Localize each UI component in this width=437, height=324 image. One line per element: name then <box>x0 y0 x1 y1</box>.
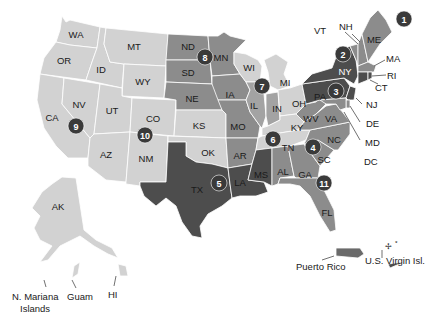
region-badge-10[interactable]: 10 <box>137 127 153 143</box>
label-sc: SC <box>317 154 330 165</box>
label-va: VA <box>325 113 338 124</box>
territory-pr[interactable] <box>336 248 364 258</box>
label-tn: TN <box>282 142 295 153</box>
region-badge-number: 1 <box>401 15 406 25</box>
label-guam: Guam <box>67 291 93 302</box>
label-hi: HI <box>108 289 118 300</box>
region-badge-number: 11 <box>319 179 329 189</box>
region-badge-2[interactable]: 2 <box>335 46 351 62</box>
label-la: LA <box>234 177 246 188</box>
label-fl: FL <box>321 207 332 218</box>
label-ny: NY <box>338 66 352 77</box>
label-ca: CA <box>45 112 59 123</box>
label-vi: U.S. Virgin Isl. <box>365 255 425 266</box>
label-nmi-1: N. Mariana <box>12 291 59 302</box>
us-regions-map: ✢ ˟ WA OR ID MT WY CA NV UT CO AZ NM ND … <box>0 0 437 324</box>
label-nh: NH <box>339 21 353 32</box>
region-badge-number: 9 <box>73 122 78 132</box>
label-mn: MN <box>214 52 229 63</box>
label-ga: GA <box>298 169 312 180</box>
label-pa: PA <box>314 91 327 102</box>
label-ak: AK <box>52 201 65 212</box>
label-nv: NV <box>72 99 86 110</box>
region-badge-number: 4 <box>310 143 315 153</box>
region-badge-number: 6 <box>270 135 275 145</box>
label-ms: MS <box>254 169 268 180</box>
state-ri[interactable] <box>368 72 372 80</box>
region-badge-5[interactable]: 5 <box>211 175 227 191</box>
region-badge-8[interactable]: 8 <box>197 49 213 65</box>
region-badge-number: 3 <box>333 87 338 97</box>
region-badge-number: 2 <box>340 50 345 60</box>
label-pr: Puerto Rico <box>296 261 346 272</box>
label-ri: RI <box>387 70 397 81</box>
label-dc: DC <box>364 156 378 167</box>
label-mi: MI <box>280 77 291 88</box>
label-ok: OK <box>201 147 215 158</box>
label-in: IN <box>272 103 282 114</box>
label-id: ID <box>96 64 106 75</box>
region-badge-3[interactable]: 3 <box>328 83 344 99</box>
label-ia: IA <box>226 89 236 100</box>
label-nj: NJ <box>366 99 378 110</box>
region-badge-4[interactable]: 4 <box>305 139 321 155</box>
label-al: AL <box>277 166 289 177</box>
region-badge-1[interactable]: 1 <box>396 11 412 27</box>
region-badge-number: 5 <box>216 179 221 189</box>
territory-hi[interactable] <box>118 264 128 276</box>
region-badge-number: 7 <box>259 82 264 92</box>
label-tx: TX <box>191 184 204 195</box>
state-ak[interactable] <box>32 177 118 262</box>
label-mo: MO <box>230 121 245 132</box>
territory-vi-islets: ✢ ˟ <box>385 241 398 251</box>
label-nmi-2: Islands <box>20 303 50 314</box>
label-wi: WI <box>243 62 255 73</box>
region-badge-number: 10 <box>140 131 150 141</box>
label-md: MD <box>365 137 380 148</box>
label-ar: AR <box>233 150 246 161</box>
region-badge-9[interactable]: 9 <box>68 118 84 134</box>
label-ky: KY <box>291 122 304 133</box>
region-badge-11[interactable]: 11 <box>316 175 332 191</box>
label-wv: WV <box>303 113 319 124</box>
label-oh: OH <box>292 98 306 109</box>
label-wa: WA <box>69 29 85 40</box>
label-nd: ND <box>181 41 195 52</box>
label-nm: NM <box>139 153 154 164</box>
label-ct: CT <box>375 82 388 93</box>
label-ks: KS <box>193 120 206 131</box>
region-badge-7[interactable]: 7 <box>254 78 270 94</box>
label-mt: MT <box>127 41 141 52</box>
label-me: ME <box>367 34 381 45</box>
state-de[interactable] <box>346 100 350 108</box>
label-vt: VT <box>314 25 326 36</box>
region-badge-6[interactable]: 6 <box>265 131 281 147</box>
label-ut: UT <box>106 105 119 116</box>
label-wy: WY <box>135 76 151 87</box>
label-az: AZ <box>100 149 112 160</box>
label-ne: NE <box>185 93 198 104</box>
label-co: CO <box>146 113 160 124</box>
label-il: IL <box>250 100 258 111</box>
label-nc: NC <box>327 134 341 145</box>
territory-guam[interactable] <box>72 262 80 278</box>
label-sd: SD <box>181 67 194 78</box>
region-badge-number: 8 <box>202 53 207 63</box>
label-de: DE <box>366 118 379 129</box>
state-ct[interactable] <box>358 72 368 84</box>
label-ma: MA <box>386 53 401 64</box>
label-or: OR <box>57 55 71 66</box>
